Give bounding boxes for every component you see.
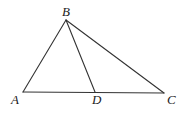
label-d: D xyxy=(91,92,102,107)
segment-ab xyxy=(23,20,66,92)
label-a: A xyxy=(10,92,19,107)
triangle-diagram: B A D C xyxy=(0,0,184,114)
label-b: B xyxy=(62,4,70,19)
label-c: C xyxy=(167,92,176,107)
